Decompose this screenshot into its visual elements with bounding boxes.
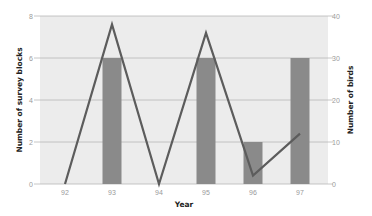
x-tick-label: 95 [202,189,210,196]
y-tick-label: 4 [29,97,33,104]
y2-tick-label: 10 [332,139,340,146]
x-tick-label: 94 [155,189,163,196]
x-axis-title: Year [174,200,194,209]
x-tick-label: 97 [296,189,304,196]
y2-tick-label: 40 [332,13,340,20]
y2-tick-label: 20 [332,97,340,104]
right-axis-title: Number of birds [346,65,355,134]
bar [197,58,216,184]
bar [244,142,263,184]
chart: 02468 010203040 929394959697 Year Number… [0,0,372,216]
left-axis-ticks: 02468 [29,13,33,188]
y-tick-label: 2 [29,139,33,146]
x-tick-label: 92 [61,189,69,196]
y-tick-label: 8 [29,13,33,20]
right-axis-ticks: 010203040 [332,13,340,188]
y2-tick-label: 0 [332,181,336,188]
x-tick-label: 96 [249,189,257,196]
chart-svg: 02468 010203040 929394959697 Year Number… [0,0,372,216]
left-axis-title: Number of survey blocks [15,47,24,153]
y-tick-label: 0 [29,181,33,188]
x-axis-ticks: 929394959697 [61,189,304,196]
x-tick-label: 93 [108,189,116,196]
bar [103,58,122,184]
y2-tick-label: 30 [332,55,340,62]
y-tick-label: 6 [29,55,33,62]
bar [291,58,310,184]
